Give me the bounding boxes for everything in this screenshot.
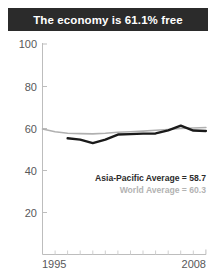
x-tick-label-start: 1995 — [42, 258, 66, 270]
x-tick-label-end: 2008 — [182, 258, 206, 270]
page-title: The economy is 61.1% free — [33, 14, 183, 26]
plot-area: 100 80 60 40 20 — [0, 33, 217, 273]
y-tick-label-60: 60 — [25, 123, 37, 135]
economic-freedom-chart-card: The economy is 61.1% free 100 80 60 40 2… — [0, 0, 217, 273]
y-tick-marks — [43, 44, 48, 213]
legend-primary-label: Asia-Pacific Average = 58.7 — [95, 173, 206, 183]
title-banner: The economy is 61.1% free — [8, 8, 208, 31]
y-tick-label-20: 20 — [25, 207, 37, 219]
x-tick-marks — [43, 250, 206, 255]
line-chart-svg: 100 80 60 40 20 — [0, 33, 217, 273]
legend-secondary-label: World Average = 60.3 — [120, 185, 207, 195]
world-average-line — [43, 128, 206, 134]
y-tick-label-40: 40 — [25, 165, 37, 177]
y-tick-label-100: 100 — [19, 38, 37, 50]
y-tick-label-80: 80 — [25, 81, 37, 93]
